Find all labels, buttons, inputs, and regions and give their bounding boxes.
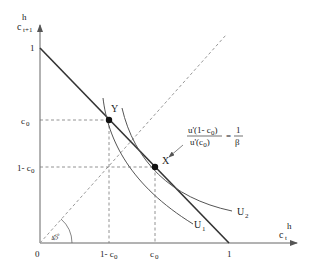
x-axis-label-sup: h (287, 221, 292, 231)
equation-equals: = (226, 131, 231, 141)
y-tick-one: 1 (30, 43, 35, 53)
y-tick-c0-sub: 0 (26, 120, 30, 128)
y-tick-1mc0-sub: 0 (31, 167, 35, 175)
y-tick-c0: c (21, 116, 25, 126)
optimality-condition: u'(1- c0) u'(c0) = 1 β (187, 125, 243, 149)
equation-numerator: u'(1- c0) (188, 125, 217, 137)
point-y-label: Y (111, 103, 118, 114)
x-axis-label: c (279, 229, 284, 240)
point-x (152, 164, 158, 170)
angle-label: 45º (50, 232, 62, 243)
equation-rhs-numerator: 1 (236, 125, 241, 135)
y-axis-label-sub: t+1 (23, 26, 33, 34)
x-tick-1mc0-sub: 0 (114, 253, 118, 261)
equation-rhs-denominator: β (235, 137, 240, 147)
two-period-consumption-diagram: h c t+1 h c t 0 1 1 c 0 1- c 0 1- c 0 c … (0, 0, 311, 270)
equation-pointer-arrow (169, 145, 183, 157)
u2-label: U (237, 206, 245, 217)
equation-denominator: u'(c0) (190, 137, 210, 149)
u1-label-sub: 1 (202, 225, 206, 233)
x-tick-c0-sub: 0 (155, 253, 159, 261)
y-axis-label-sup: h (22, 12, 27, 22)
angle-arc (61, 219, 72, 243)
indifference-curve-u1 (103, 98, 193, 224)
x-tick-c0: c (150, 249, 154, 259)
u1-label: U (194, 219, 202, 230)
x-axis-label-sub: t (285, 234, 287, 242)
x-tick-1mc0: 1- c (100, 249, 114, 259)
origin-label: 0 (35, 249, 40, 259)
point-x-label: X (162, 155, 170, 166)
y-tick-1mc0: 1- c (17, 163, 31, 173)
point-y (106, 117, 112, 123)
y-axis-label: c (17, 21, 22, 32)
x-tick-one: 1 (227, 249, 232, 259)
u2-label-sub: 2 (245, 212, 249, 220)
indifference-curve-u2 (122, 108, 232, 211)
